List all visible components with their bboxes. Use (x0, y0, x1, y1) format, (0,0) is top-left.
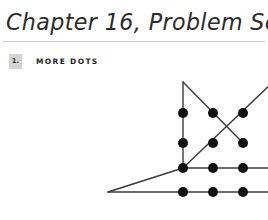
figure-dot-r2c2 (208, 138, 218, 148)
figure-dot-r2c1 (178, 138, 188, 148)
problem-number-badge: 1. (9, 54, 22, 69)
dot-grid-svg (98, 70, 268, 220)
figure-dot-r4c3 (238, 187, 248, 197)
figure-line-group (108, 82, 268, 192)
figure-dot-r3c3 (238, 163, 248, 173)
figure-dot-r2c3 (238, 138, 248, 148)
figure-dot-r3c1 (178, 163, 188, 173)
figure-dot-r1c2 (208, 108, 218, 118)
page-header: Chapter 16, Problem Set A (0, 0, 268, 46)
title-divider (3, 41, 265, 42)
figure-dot-r1c3 (238, 108, 248, 118)
figure-dot-group (178, 108, 268, 197)
figure-dot-r1c1 (178, 108, 188, 118)
figure-dot-r3c2 (208, 163, 218, 173)
dot-grid-figure (98, 70, 268, 220)
page-title: Chapter 16, Problem Set A (6, 8, 268, 36)
figure-segment-bottom-left-diagonal (108, 168, 183, 192)
problem-title: MORE DOTS (36, 55, 99, 68)
figure-dot-r4c1 (178, 187, 188, 197)
figure-dot-r4c2 (208, 187, 218, 197)
